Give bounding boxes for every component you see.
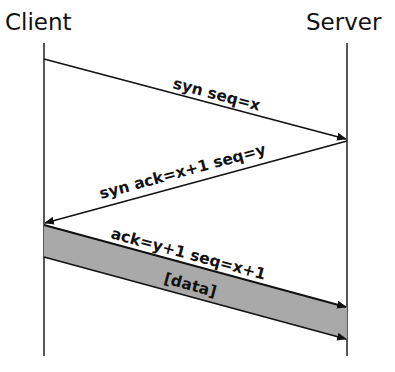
- message-label-syn: syn seq=x: [171, 74, 262, 114]
- sequence-diagram: Client Server syn seq=x syn ack=x+1 seq=…: [0, 0, 395, 372]
- participant-client-label: Client: [5, 9, 72, 35]
- message-arrow-syn: [44, 59, 346, 139]
- message-label-syn-ack: syn ack=x+1 seq=y: [97, 140, 268, 202]
- participant-server-label: Server: [306, 9, 382, 35]
- message-arrow-syn-ack: [45, 141, 347, 223]
